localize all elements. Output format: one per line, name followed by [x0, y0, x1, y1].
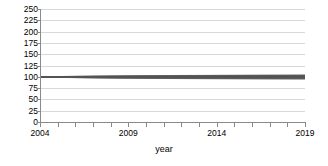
- x-axis-tick: [164, 123, 165, 127]
- x-axis-tick-label: 2004: [31, 129, 50, 138]
- y-axis-tick: [37, 20, 40, 21]
- x-axis-tick: [305, 123, 306, 127]
- y-axis-tick-label: 250: [24, 5, 38, 14]
- y-axis-tick: [37, 43, 40, 44]
- x-axis-tick: [146, 123, 147, 127]
- y-axis-tick-labels: 2502252001751501251007550250: [10, 0, 38, 166]
- x-axis-tick: [75, 123, 76, 127]
- x-axis-tick: [217, 123, 218, 127]
- x-axis-tick-label: 2009: [119, 129, 138, 138]
- series-layer: [40, 9, 305, 122]
- y-axis-line: [40, 9, 41, 123]
- y-axis-tick-label: 125: [24, 61, 38, 70]
- x-axis-tick: [40, 123, 41, 127]
- x-axis-tick-label: 2014: [207, 129, 226, 138]
- y-axis-tick: [37, 32, 40, 33]
- x-axis-tick: [270, 123, 271, 127]
- y-axis-tick-label: 150: [24, 50, 38, 59]
- y-axis-tick-label: 225: [24, 16, 38, 25]
- x-axis-tick: [234, 123, 235, 127]
- x-axis-tick: [58, 123, 59, 127]
- plot-area: [40, 9, 305, 122]
- y-axis-tick: [37, 9, 40, 10]
- fan-chart: 2502252001751501251007550250 20042009201…: [0, 0, 328, 166]
- x-axis-tick: [128, 123, 129, 127]
- y-axis-tick: [37, 111, 40, 112]
- x-axis-title: year: [0, 145, 328, 154]
- x-axis-tick: [252, 123, 253, 127]
- y-axis-tick: [37, 88, 40, 89]
- x-axis-tick-label: 2019: [296, 129, 315, 138]
- x-axis-tick: [287, 123, 288, 127]
- y-axis-tick-label: 100: [24, 73, 38, 82]
- y-axis-tick: [37, 54, 40, 55]
- x-axis-tick: [93, 123, 94, 127]
- x-axis-tick: [111, 123, 112, 127]
- x-axis-line: [40, 122, 306, 123]
- x-axis-tick: [181, 123, 182, 127]
- x-axis-tick: [199, 123, 200, 127]
- y-axis-tick: [37, 77, 40, 78]
- y-axis-tick-label: 175: [24, 39, 38, 48]
- y-axis-tick-label: 200: [24, 27, 38, 36]
- y-axis-tick: [37, 66, 40, 67]
- y-axis-tick: [37, 99, 40, 100]
